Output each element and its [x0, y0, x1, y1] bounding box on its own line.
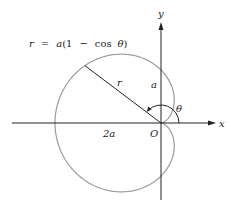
equation-label: r = a(1 − cos θ) [29, 33, 128, 50]
a-length-label: a [151, 79, 157, 90]
two-a-label: 2a [102, 128, 115, 139]
angle-arc [148, 105, 179, 123]
x-axis-arrow-icon [208, 121, 216, 126]
y-axis-label: y [157, 8, 164, 19]
radius-label: r [117, 77, 123, 88]
theta-label: θ [176, 103, 182, 114]
radius-line [85, 66, 161, 123]
origin-label: O [150, 128, 158, 139]
angle-arrow-icon [147, 107, 152, 112]
cardioid-diagram: r = a(1 − cos θ) y x O r a 2a θ [0, 0, 231, 205]
x-axis-label: x [219, 118, 225, 129]
y-axis-arrow-icon [159, 22, 164, 30]
